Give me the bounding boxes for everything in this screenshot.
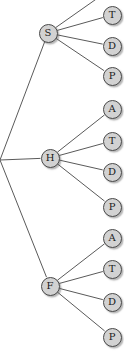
tree-node-layer: SHFTDPATDPATDP	[0, 0, 124, 353]
tree-node-f-p[interactable]: P	[103, 328, 122, 347]
tree-node-label: A	[108, 233, 115, 243]
tree-node-label: D	[108, 297, 116, 307]
tree-diagram: SHFTDPATDPATDP	[0, 0, 124, 353]
tree-node-label: D	[108, 167, 116, 177]
tree-node-label: H	[46, 153, 55, 163]
tree-node-label: T	[109, 264, 116, 274]
tree-node-s[interactable]: S	[39, 24, 58, 43]
tree-node-h-p[interactable]: P	[103, 198, 122, 217]
tree-node-label: P	[109, 71, 116, 81]
tree-node-s-d[interactable]: D	[103, 37, 122, 56]
tree-node-h-a[interactable]: A	[103, 100, 122, 119]
tree-node-label: D	[108, 41, 116, 51]
tree-node-label: T	[109, 10, 116, 20]
tree-node-f-d[interactable]: D	[103, 293, 122, 312]
tree-node-h-d[interactable]: D	[103, 163, 122, 182]
tree-node-label: S	[45, 28, 52, 38]
tree-node-label: T	[109, 136, 116, 146]
tree-node-s-t[interactable]: T	[103, 6, 122, 25]
tree-node-label: A	[108, 104, 115, 114]
tree-node-f-a[interactable]: A	[103, 229, 122, 248]
tree-node-f[interactable]: F	[41, 277, 60, 296]
tree-node-h[interactable]: H	[41, 149, 60, 168]
tree-node-label: F	[47, 281, 54, 291]
tree-node-f-t[interactable]: T	[103, 260, 122, 279]
tree-node-label: P	[109, 202, 116, 212]
tree-node-h-t[interactable]: T	[103, 132, 122, 151]
tree-node-s-p[interactable]: P	[103, 67, 122, 86]
tree-node-label: P	[109, 332, 116, 342]
